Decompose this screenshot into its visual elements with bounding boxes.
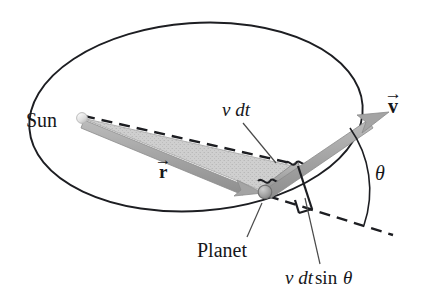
sun-marker [77,113,88,124]
leader-planet [247,203,262,237]
label-v-dt: v dt [222,100,250,119]
sun-dot [77,113,88,124]
label-v-dt-sin-theta: v dtsin θ [285,268,352,287]
planet-marker [258,185,272,199]
vdtsin-theta: θ [343,267,352,288]
vdtsin-sin: sin [313,267,338,288]
label-sun: Sun [26,110,57,130]
vdtsin-dt: dt [298,267,313,288]
dashed-radius-extension [268,196,393,235]
label-r-vector: → r [159,162,167,181]
r-vector-accent: → [155,152,172,169]
label-v-vector: → v [388,96,398,116]
ellipse-path [23,12,369,223]
v-vector-glyph: → v [388,96,398,116]
orbit-ellipse [23,12,369,223]
label-planet: Planet [197,240,247,260]
planet-dot [258,185,272,199]
label-theta: θ [375,163,385,183]
vdtsin-v: v [285,267,293,288]
kepler-second-law-figure: Sun Planet v dt v dtsin θ θ → r → v [0,0,427,303]
r-vector-glyph: → r [159,162,167,181]
velocity-shaft [266,120,373,198]
v-vector-accent: → [384,85,402,103]
velocity-vector-arrow [266,112,389,198]
